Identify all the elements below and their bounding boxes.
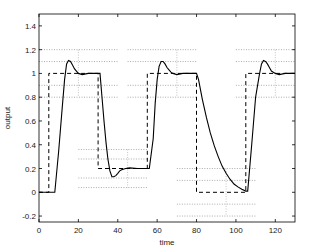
y-tick-label: 0.6 bbox=[25, 117, 37, 126]
y-tick-label: 1.2 bbox=[25, 46, 37, 55]
y-tick-label: 0 bbox=[32, 188, 37, 197]
y-tick-label: 0.4 bbox=[25, 141, 37, 150]
y-tick-label: 1 bbox=[32, 69, 37, 78]
plot-frame bbox=[39, 14, 295, 222]
x-tick-label: 60 bbox=[153, 226, 162, 235]
x-tick-label: 100 bbox=[229, 226, 243, 235]
x-tick-label: 20 bbox=[74, 226, 83, 235]
step-response-chart: 020406080100120 -0.200.20.40.60.811.21.4… bbox=[0, 0, 310, 250]
y-tick-label: -0.2 bbox=[22, 212, 36, 221]
reference-bands bbox=[39, 50, 295, 216]
x-axis-label: time bbox=[159, 238, 175, 247]
output-line bbox=[39, 60, 295, 192]
x-tick-label: 0 bbox=[37, 226, 42, 235]
y-axis-label: output bbox=[3, 106, 12, 129]
y-tick-label: 0.8 bbox=[25, 93, 37, 102]
output-series bbox=[39, 60, 295, 192]
y-tick-label: 1.4 bbox=[25, 22, 37, 31]
x-tick-label: 40 bbox=[113, 226, 122, 235]
x-tick-label: 120 bbox=[269, 226, 283, 235]
x-tick-label: 80 bbox=[192, 226, 201, 235]
y-tick-label: 0.2 bbox=[25, 165, 37, 174]
